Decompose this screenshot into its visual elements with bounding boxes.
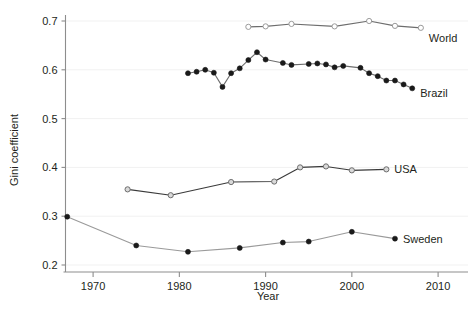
data-point-usa	[125, 187, 130, 192]
data-point-world	[289, 21, 294, 26]
data-point-brazil	[375, 74, 380, 79]
x-tick-label: 1980	[167, 280, 191, 292]
x-tick-label: 2000	[340, 280, 364, 292]
data-point-usa	[272, 179, 277, 184]
series-label-brazil: Brazil	[420, 87, 448, 99]
data-point-usa	[298, 165, 303, 170]
gini-coefficient-line-chart: 0.20.30.40.50.60.7 19701980199020002010 …	[0, 0, 471, 320]
y-tick-label: 0.6	[42, 64, 57, 76]
data-point-usa	[384, 167, 389, 172]
series-group	[65, 18, 424, 254]
y-axis-title: Gini coefficient	[8, 114, 20, 186]
data-point-usa	[229, 179, 234, 184]
data-point-sweden	[392, 236, 397, 241]
ytick-marks-group	[62, 21, 66, 265]
data-point-sweden	[349, 229, 354, 234]
data-point-sweden	[185, 249, 190, 254]
y-tick-label: 0.5	[42, 113, 57, 125]
series-sweden	[65, 214, 398, 254]
data-point-brazil	[237, 66, 242, 71]
data-point-sweden	[306, 239, 311, 244]
x-tick-label: 2010	[426, 280, 450, 292]
data-point-brazil	[280, 60, 285, 65]
series-label-world: World	[429, 32, 458, 44]
data-point-brazil	[401, 82, 406, 87]
data-point-brazil	[263, 57, 268, 62]
data-point-usa	[323, 164, 328, 169]
data-point-brazil	[410, 86, 415, 91]
data-point-world	[263, 24, 268, 29]
data-point-usa	[349, 168, 354, 173]
data-point-sweden	[237, 245, 242, 250]
data-point-brazil	[332, 65, 337, 70]
data-point-brazil	[315, 61, 320, 66]
data-point-brazil	[306, 61, 311, 66]
data-point-world	[392, 23, 397, 28]
data-point-brazil	[384, 78, 389, 83]
series-labels-group: WorldBrazilUSASweden	[394, 32, 457, 245]
chart-canvas: 0.20.30.40.50.60.7 19701980199020002010 …	[0, 0, 471, 320]
data-point-brazil	[254, 50, 259, 55]
data-point-sweden	[280, 240, 285, 245]
data-point-brazil	[220, 84, 225, 89]
data-point-world	[367, 18, 372, 23]
data-point-brazil	[341, 63, 346, 68]
data-point-sweden	[134, 243, 139, 248]
x-axis-title: Year	[257, 290, 280, 302]
data-point-brazil	[358, 65, 363, 70]
data-point-brazil	[229, 71, 234, 76]
xtick-marks-group	[93, 272, 438, 277]
y-tick-label: 0.2	[42, 259, 57, 271]
data-point-world	[332, 24, 337, 29]
series-usa	[125, 164, 389, 198]
data-point-brazil	[246, 58, 251, 63]
data-point-brazil	[203, 67, 208, 72]
y-tick-label: 0.3	[42, 210, 57, 222]
y-tick-label: 0.7	[42, 15, 57, 27]
series-world	[246, 18, 424, 30]
data-point-brazil	[392, 78, 397, 83]
series-label-sweden: Sweden	[403, 233, 443, 245]
data-point-world	[246, 24, 251, 29]
data-point-brazil	[323, 62, 328, 67]
data-point-brazil	[211, 70, 216, 75]
data-point-brazil	[367, 71, 372, 76]
data-point-brazil	[289, 62, 294, 67]
data-point-brazil	[185, 71, 190, 76]
data-point-world	[418, 25, 423, 30]
series-line-sweden	[67, 217, 395, 252]
data-point-usa	[168, 193, 173, 198]
ytick-labels-group: 0.20.30.40.50.60.7	[42, 15, 57, 271]
x-tick-label: 1970	[81, 280, 105, 292]
data-point-sweden	[65, 214, 70, 219]
series-line-usa	[128, 166, 387, 195]
series-label-usa: USA	[394, 163, 417, 175]
y-tick-label: 0.4	[42, 161, 57, 173]
data-point-brazil	[194, 69, 199, 74]
